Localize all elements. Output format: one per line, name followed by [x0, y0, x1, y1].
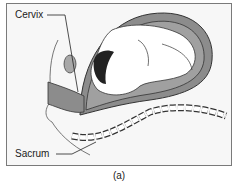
cervix-leader-line: [47, 15, 78, 92]
figure-caption: (a): [0, 170, 238, 181]
birth-canal: [48, 82, 84, 112]
cervix-label: Cervix: [15, 9, 43, 20]
sacrum-leader-line: [56, 142, 96, 154]
sacrum-label: Sacrum: [15, 148, 49, 159]
